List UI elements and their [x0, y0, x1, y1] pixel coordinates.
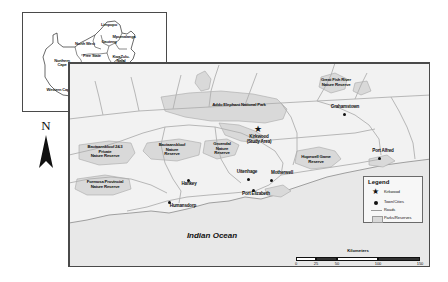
label-formosa-provincial-nature-reserve: Formosa Provincial Nature Reserve	[69, 180, 141, 189]
legend-label-roads: Roads	[384, 207, 395, 212]
scale-tick-100: 100	[375, 261, 382, 266]
label-addo-elephant-national-park: Addo Elephant National Park	[179, 103, 299, 108]
label-grahamstown: Grahamstown	[317, 105, 373, 110]
scale-tick-150: 150	[417, 261, 424, 266]
label-uitenhage: Uitenhage	[221, 170, 273, 175]
kirkwood-star-icon: ★	[254, 125, 262, 134]
main-map: Addo Elephant National Park Great Fish R…	[68, 62, 430, 267]
legend-label-kirkwood: Kirkwood	[384, 189, 400, 194]
label-hopewell-game-reserve: Hopewell Game Reserve	[280, 155, 352, 164]
legend-row-kirkwood: ★ Kirkwood	[368, 188, 424, 197]
province-label-north-west: North West	[65, 42, 105, 46]
legend-star-icon: ★	[371, 188, 382, 197]
label-great-fish-river-nature-reserve: Great Fish River Nature Reserve	[298, 78, 374, 87]
scale-tick-0: 0	[295, 261, 297, 266]
label-baviaanskloof-nature-reserve: Baviaanskloof Nature Reserve	[141, 143, 203, 157]
north-arrow-glyph	[38, 135, 54, 169]
legend-row-parks: Parks/Reserves	[368, 214, 424, 223]
label-baviaanskloof-private-nature-reserve: Baviaanskloof 2&3 Private Nature Reserve	[69, 145, 141, 159]
legend-polygon-icon	[371, 214, 382, 223]
label-port-elizabeth: Port Elizabeth	[227, 192, 285, 197]
label-port-alfred: Port Alfred	[359, 149, 407, 154]
label-humansdorp: Humansdorp	[155, 204, 211, 209]
map-legend: Legend ★ Kirkwood Town/Cities Roads Park…	[363, 176, 423, 223]
legend-label-towns: Town/Cities	[384, 199, 404, 204]
scale-bar: Kilometers 0 25 50 100 150	[292, 248, 424, 268]
label-hankey: Hankey	[167, 182, 211, 187]
north-arrow-letter: N	[26, 118, 66, 134]
scale-tick-25: 25	[314, 261, 318, 266]
label-indian-ocean: Indian Ocean	[157, 231, 267, 240]
scale-bar-title: Kilometers	[292, 248, 424, 253]
legend-title: Legend	[368, 179, 389, 185]
label-kirkwood-study-area: Kirkwood (Study Area)	[229, 135, 289, 145]
legend-label-parks: Parks/Reserves	[384, 215, 411, 220]
north-arrow: N	[26, 118, 66, 170]
scale-tick-50: 50	[335, 261, 339, 266]
province-label-limpopo: Limpopo	[89, 23, 129, 27]
